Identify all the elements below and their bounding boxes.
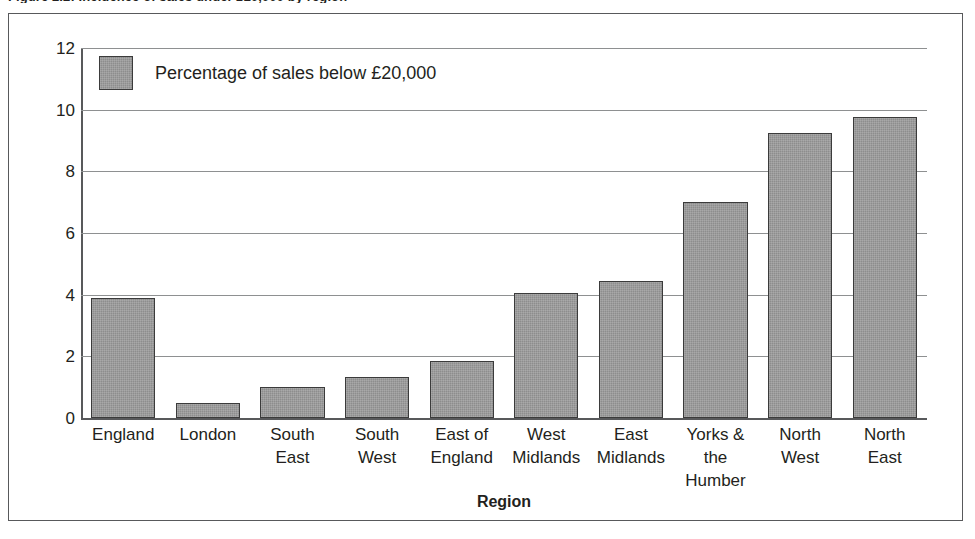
x-tick-label-line: East — [589, 424, 674, 447]
figure-frame: 024681012 EnglandLondonSouthEastSouthWes… — [8, 13, 963, 521]
bar[interactable] — [683, 202, 747, 418]
bar[interactable] — [345, 377, 409, 418]
bar[interactable] — [514, 293, 578, 418]
x-tick-label: NorthWest — [758, 424, 843, 470]
x-tick-label: NorthEast — [842, 424, 927, 470]
x-tick-label-line: West — [335, 447, 420, 470]
legend-swatch-icon — [99, 56, 133, 90]
y-tick-label-12: 12 — [13, 40, 75, 57]
x-tick-label-line: Yorks & the — [673, 424, 758, 470]
x-tick-label-line: England — [81, 424, 166, 447]
x-tick-label: SouthWest — [335, 424, 420, 470]
bar[interactable] — [176, 403, 240, 418]
bar-slot — [673, 48, 758, 418]
x-tick-label-line: Midlands — [589, 447, 674, 470]
gridline-0 — [81, 418, 927, 420]
legend-label: Percentage of sales below £20,000 — [155, 63, 436, 84]
x-tick-label-line: London — [166, 424, 251, 447]
x-tick-label-line: East of — [419, 424, 504, 447]
x-tick-label: Yorks & theHumber — [673, 424, 758, 493]
bar-chart: 024681012 EnglandLondonSouthEastSouthWes… — [9, 14, 964, 522]
x-axis-tick-labels: EnglandLondonSouthEastSouthWestEast ofEn… — [81, 424, 927, 486]
x-tick-label-line: West — [504, 424, 589, 447]
y-tick-label-10: 10 — [13, 101, 75, 118]
y-tick-label-8: 8 — [13, 163, 75, 180]
bar[interactable] — [430, 361, 494, 418]
bar[interactable] — [768, 133, 832, 418]
bar-slot — [842, 48, 927, 418]
x-tick-label: EastMidlands — [589, 424, 674, 470]
figure-caption: Figure 2.2: Incidence of sales under £20… — [8, 0, 347, 3]
bar-slot — [504, 48, 589, 418]
y-axis-tick-labels: 024681012 — [9, 14, 75, 522]
bar[interactable] — [599, 281, 663, 418]
x-tick-label-line: South — [335, 424, 420, 447]
bar-slot — [589, 48, 674, 418]
x-tick-label-line: East — [250, 447, 335, 470]
x-tick-label: England — [81, 424, 166, 447]
x-tick-label-line: England — [419, 447, 504, 470]
bar[interactable] — [853, 117, 917, 418]
x-tick-label-line: South — [250, 424, 335, 447]
x-tick-label-line: North — [842, 424, 927, 447]
bar-slot — [81, 48, 166, 418]
x-axis-title: Region — [81, 493, 927, 511]
bar-slot — [758, 48, 843, 418]
y-tick-label-0: 0 — [13, 410, 75, 427]
y-tick-label-6: 6 — [13, 225, 75, 242]
y-tick-label-4: 4 — [13, 286, 75, 303]
x-tick-label: WestMidlands — [504, 424, 589, 470]
x-tick-label-line: North — [758, 424, 843, 447]
x-tick-label-line: East — [842, 447, 927, 470]
bar-slot — [166, 48, 251, 418]
x-tick-label: London — [166, 424, 251, 447]
x-tick-label: East ofEngland — [419, 424, 504, 470]
y-tick-label-2: 2 — [13, 348, 75, 365]
chart-legend: Percentage of sales below £20,000 — [99, 56, 436, 90]
bar-slot — [335, 48, 420, 418]
x-tick-label-line: West — [758, 447, 843, 470]
x-tick-label-line: Midlands — [504, 447, 589, 470]
bar-slot — [419, 48, 504, 418]
x-tick-label: SouthEast — [250, 424, 335, 470]
bar[interactable] — [91, 298, 155, 418]
plot-area — [81, 48, 927, 418]
bar[interactable] — [260, 387, 324, 418]
x-tick-label-line: Humber — [673, 470, 758, 493]
bar-slot — [250, 48, 335, 418]
